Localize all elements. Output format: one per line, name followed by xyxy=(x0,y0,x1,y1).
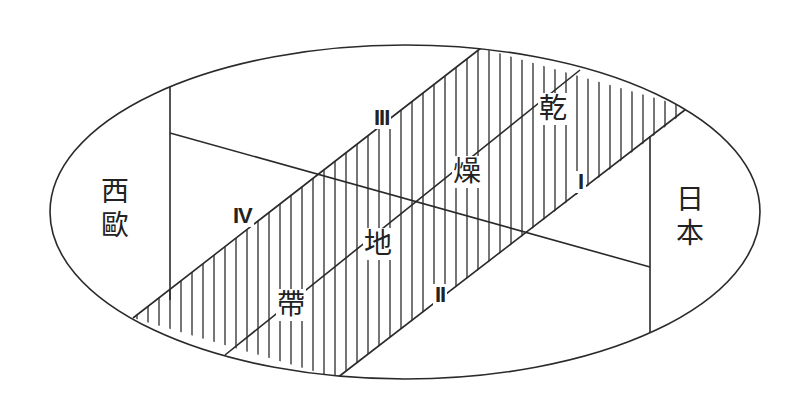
label-west-europe: 西 歐 xyxy=(101,178,129,246)
label-japan-2: 本 xyxy=(676,220,704,248)
label-band-tai: 帶 xyxy=(276,289,306,321)
label-japan-1: 日 xyxy=(676,186,704,214)
label-band-kan: 乾 xyxy=(538,93,568,125)
label-zone-II: II xyxy=(433,284,447,306)
label-band-chi: 地 xyxy=(363,228,393,260)
label-west-europe-2: 歐 xyxy=(101,212,129,240)
label-west-europe-1: 西 xyxy=(101,178,129,206)
label-zone-III: III xyxy=(372,107,391,129)
label-japan: 日 本 xyxy=(676,186,704,254)
label-zone-I: I xyxy=(575,171,586,193)
label-zone-IV: IV xyxy=(231,205,254,227)
label-band-sou: 燥 xyxy=(452,156,482,188)
